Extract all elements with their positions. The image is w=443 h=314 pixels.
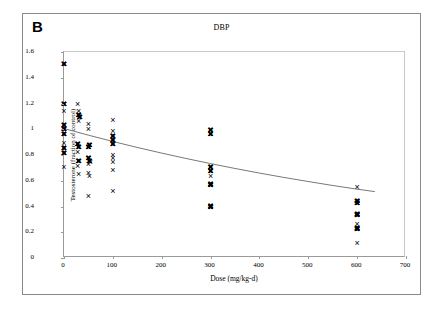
y-tick (61, 232, 64, 233)
y-tick (61, 129, 64, 130)
fitted-curve (64, 129, 375, 192)
figure-root: B DBP 0100200300400500600700 00.20.40.60… (0, 0, 443, 314)
y-tick (61, 207, 64, 208)
y-tick (61, 155, 64, 156)
y-tick (61, 104, 64, 105)
y-tick (61, 52, 64, 53)
x-tick (211, 256, 212, 259)
scatter-data-layer (64, 52, 404, 256)
x-tick (64, 256, 65, 259)
chart-title: DBP (22, 23, 421, 32)
x-tick (308, 256, 309, 259)
y-axis-title: Testosterone (fraction of control) (69, 52, 77, 258)
y-tick (61, 258, 64, 259)
x-tick (162, 256, 163, 259)
x-axis-title: Dose (mg/kg-d) (63, 274, 405, 283)
x-tick (259, 256, 260, 259)
x-tick (113, 256, 114, 259)
x-tick (406, 256, 407, 259)
plot-area (63, 51, 405, 257)
x-tick (357, 256, 358, 259)
y-tick (61, 78, 64, 79)
y-tick (61, 181, 64, 182)
y-axis-title-wrap: Testosterone (fraction of control) (33, 51, 47, 257)
